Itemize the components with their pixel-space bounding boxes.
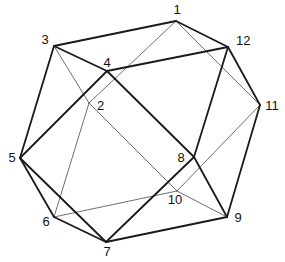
edge-2-6: [54, 103, 89, 217]
vertex-labels-group: 123456789101112: [8, 2, 278, 259]
vertex-label-7: 7: [103, 244, 110, 259]
vertex-label-5: 5: [8, 150, 15, 165]
edge-2-10: [89, 103, 177, 191]
vertex-label-10: 10: [168, 192, 182, 207]
edge-5-6: [20, 158, 54, 217]
edge-5-7: [20, 158, 106, 242]
vertex-label-4: 4: [103, 55, 110, 70]
edge-4-12: [107, 47, 228, 71]
edge-4-8: [107, 71, 194, 157]
edge-1-2: [89, 21, 176, 103]
vertex-label-9: 9: [234, 210, 241, 225]
polyhedron-diagram: 123456789101112: [0, 0, 285, 262]
vertex-label-2: 2: [97, 98, 104, 113]
edge-6-10: [54, 191, 177, 217]
edge-6-7: [54, 217, 106, 242]
edge-12-11: [228, 47, 260, 105]
edge-12-8: [194, 47, 228, 157]
vertex-label-3: 3: [41, 32, 48, 47]
vertex-label-11: 11: [265, 98, 279, 113]
edge-1-3: [54, 21, 176, 46]
vertex-label-8: 8: [177, 150, 184, 165]
vertex-label-1: 1: [173, 2, 180, 17]
edge-1-12: [176, 21, 228, 47]
visible-edges-group: [20, 21, 260, 242]
vertex-label-12: 12: [236, 33, 250, 48]
edge-7-9: [106, 217, 227, 242]
vertex-label-6: 6: [42, 214, 49, 229]
